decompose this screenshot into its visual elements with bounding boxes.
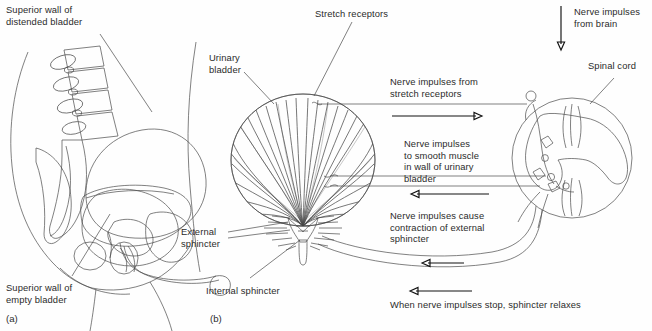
label-nerve-impulses-from-brain: Nerve impulses from brain xyxy=(574,6,640,29)
label-superior-wall-distended: Superior wall of distended bladder xyxy=(6,4,82,27)
spinal-cord-cross-section xyxy=(512,91,632,228)
urinary-bladder-detail xyxy=(228,94,378,226)
label-internal-sphincter: Internal sphincter xyxy=(206,285,280,297)
label-impulses-from-stretch-receptors: Nerve impulses from stretch receptors xyxy=(390,76,478,99)
label-impulses-stop-relaxes: When nerve impulses stop, sphincter rela… xyxy=(390,299,581,311)
panel-tag-a: (a) xyxy=(6,313,18,324)
figure-artwork xyxy=(0,0,652,331)
label-stretch-receptors: Stretch receptors xyxy=(315,8,388,20)
label-superior-wall-empty: Superior wall of empty bladder xyxy=(6,282,72,305)
label-urinary-bladder: Urinary bladder xyxy=(209,52,241,75)
label-impulses-cause-contraction: Nerve impulses cause contraction of exte… xyxy=(390,210,485,245)
label-spinal-cord: Spinal cord xyxy=(588,60,636,72)
pelvic-bone xyxy=(74,189,193,274)
micturition-reflex-figure: Superior wall of distended bladder Super… xyxy=(0,0,652,331)
label-impulses-to-smooth-muscle: Nerve impulses to smooth muscle in wall … xyxy=(404,138,479,184)
vertebrae-group xyxy=(36,46,118,244)
label-external-sphincter: External sphincter xyxy=(181,226,220,249)
panel-tag-b: (b) xyxy=(210,313,222,324)
detrusor-muscle-fibers xyxy=(228,98,378,226)
